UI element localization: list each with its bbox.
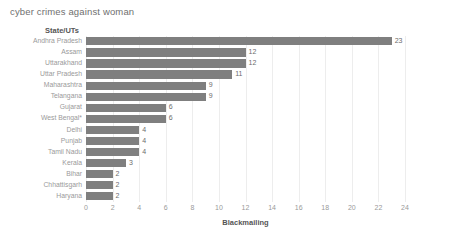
x-tick-label: 4 [137,204,141,211]
bar-value-label: 6 [169,114,173,121]
x-axis-title: Blackmailing [86,218,405,227]
bar-value-label: 12 [249,59,257,66]
bar-value-label: 2 [116,192,120,199]
bar-row: Punjab4 [86,136,405,147]
x-tick-label: 24 [401,204,409,211]
bar[interactable] [86,148,139,156]
x-tick-label: 2 [111,204,115,211]
bar-row: Assam12 [86,47,405,58]
bar-row: Maharashtra9 [86,80,405,91]
bar-value-label: 3 [129,159,133,166]
bar[interactable] [86,59,246,67]
bar-row: West Bengal*6 [86,113,405,124]
bar[interactable] [86,104,166,112]
bar[interactable] [86,115,166,123]
bar[interactable] [86,70,232,78]
bar-value-label: 9 [209,92,213,99]
bar[interactable] [86,192,113,200]
bar-value-label: 6 [169,103,173,110]
category-label: Punjab [61,137,82,144]
bar-value-label: 23 [395,37,403,44]
bar-value-label: 4 [142,126,146,133]
bar-row: Bihar2 [86,169,405,180]
chart-container: cyber crimes against woman State/UTs And… [0,0,461,243]
bar[interactable] [86,170,113,178]
bar-value-label: 12 [249,48,257,55]
chart-title: cyber crimes against woman [10,6,134,17]
bar-row: Uttarakhand12 [86,58,405,69]
bar-value-label: 4 [142,137,146,144]
bar-value-label: 4 [142,148,146,155]
category-label: Andhra Pradesh [33,37,82,44]
bar-row: Kerala3 [86,158,405,169]
category-label: Gujarat [60,103,82,110]
category-label: Tamil Nadu [48,148,82,155]
gridline [405,36,406,202]
category-label: Telangana [51,92,82,99]
bar-row: Delhi4 [86,125,405,136]
category-label: Uttarakhand [45,59,82,66]
bar[interactable] [86,48,246,56]
bar[interactable] [86,181,113,189]
x-axis-ticks: 024681012141618202224 [86,204,405,216]
bar-value-label: 11 [235,70,242,77]
category-label: Haryana [56,192,82,199]
bar-value-label: 2 [116,170,120,177]
bar-row: Gujarat6 [86,102,405,113]
x-tick-label: 6 [164,204,168,211]
x-tick-label: 14 [268,204,276,211]
x-tick-label: 22 [375,204,383,211]
bar-row: Chhattisgarh2 [86,180,405,191]
category-label: Assam [61,48,82,55]
category-label: Delhi [67,126,83,133]
bar[interactable] [86,137,139,145]
bar[interactable] [86,159,126,167]
bar-row: Telangana9 [86,91,405,102]
category-label: Maharashtra [44,81,82,88]
bar[interactable] [86,126,139,134]
category-label: Bihar [66,170,82,177]
x-tick-label: 18 [321,204,329,211]
category-label: Chhattisgarh [43,181,82,188]
y-axis-title: State/UTs [45,26,79,35]
bar[interactable] [86,37,392,45]
bar-value-label: 2 [116,181,120,188]
x-tick-label: 8 [190,204,194,211]
bar-row: Andhra Pradesh23 [86,36,405,47]
bar[interactable] [86,93,206,101]
bar-row: Tamil Nadu4 [86,147,405,158]
x-tick-label: 0 [84,204,88,211]
x-tick-label: 10 [215,204,223,211]
x-tick-label: 20 [348,204,356,211]
bar-value-label: 9 [209,81,213,88]
x-tick-label: 16 [295,204,303,211]
x-tick-label: 12 [242,204,250,211]
category-label: Uttar Pradesh [40,70,82,77]
bar-row: Uttar Pradesh11 [86,69,405,80]
bar-rows: Andhra Pradesh23Assam12Uttarakhand12Utta… [86,36,405,202]
bar-row: Haryana2 [86,191,405,202]
category-label: Kerala [62,159,82,166]
category-label: West Bengal* [41,114,82,121]
bar[interactable] [86,82,206,90]
plot-area: Andhra Pradesh23Assam12Uttarakhand12Utta… [86,36,405,202]
